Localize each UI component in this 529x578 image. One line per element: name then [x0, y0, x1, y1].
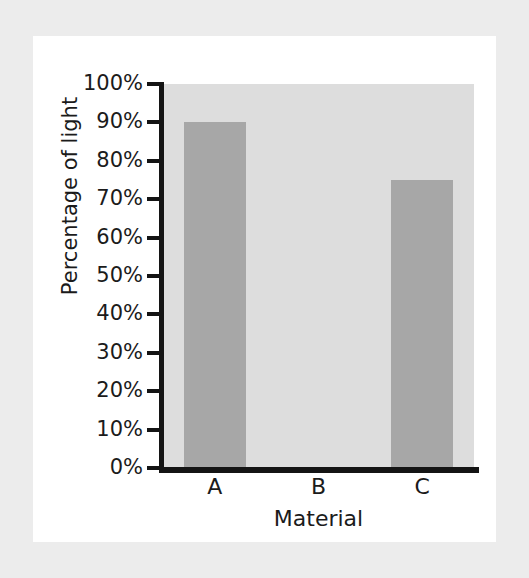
y-axis-tick-label: 0%	[69, 457, 143, 478]
y-axis-tick	[147, 428, 160, 432]
y-axis-tick-label: 10%	[69, 419, 143, 440]
y-axis-tick	[147, 120, 160, 124]
bar-chart: 0%10%20%30%40%50%60%70%80%90%100% Percen…	[33, 36, 496, 542]
y-axis-tick-label: 30%	[69, 342, 143, 363]
y-axis-tick	[147, 197, 160, 201]
y-axis-tick	[147, 159, 160, 163]
y-axis-tick-label: 20%	[69, 380, 143, 401]
x-axis-line	[159, 467, 479, 473]
figure-card: 0%10%20%30%40%50%60%70%80%90%100% Percen…	[33, 36, 496, 542]
y-axis-tick	[147, 466, 160, 470]
y-axis-tick	[147, 389, 160, 393]
bars-layer	[163, 84, 474, 468]
x-axis-tick-label-c: C	[414, 474, 429, 499]
x-axis-tick-label-b: B	[311, 474, 326, 499]
plot-area	[163, 84, 474, 468]
y-axis-tick	[147, 312, 160, 316]
y-axis-title: Percentage of light	[58, 81, 82, 311]
y-axis-tick	[147, 274, 160, 278]
bar-c	[391, 180, 453, 468]
bar-a	[184, 122, 246, 468]
x-axis-tick-labels: ABC	[163, 474, 474, 504]
x-axis-title: Material	[163, 506, 474, 531]
y-axis-tick	[147, 236, 160, 240]
y-axis-tick	[147, 82, 160, 86]
y-axis-tick	[147, 351, 160, 355]
x-axis-tick-label-a: A	[207, 474, 222, 499]
